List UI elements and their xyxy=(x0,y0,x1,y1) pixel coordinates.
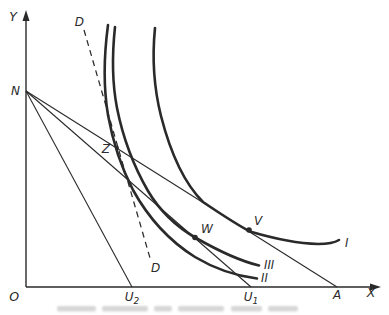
label-u2-base: U xyxy=(125,290,134,304)
label-x-axis: X xyxy=(366,285,376,300)
point-w-dot xyxy=(192,235,198,241)
label-y-axis: Y xyxy=(9,9,18,24)
indifference-curve-i xyxy=(154,28,339,244)
label-point-a: A xyxy=(332,288,341,302)
caption-smudge-segment xyxy=(268,306,298,312)
indifference-curve-ii xyxy=(105,25,257,279)
label-u1-subscript: 1 xyxy=(253,296,259,306)
label-point-z: Z xyxy=(101,142,111,156)
line-n-u2 xyxy=(26,91,132,287)
figure-canvas: Y X O N D D Z W V U2 U1 A I II III xyxy=(0,0,389,315)
label-u1-base: U xyxy=(244,290,253,304)
label-curve-iii: III xyxy=(264,258,275,272)
label-point-v: V xyxy=(254,214,263,228)
caption-smudge-segment xyxy=(178,306,224,312)
label-curve-ii: II xyxy=(261,271,268,285)
caption-smudge-segment xyxy=(154,306,172,312)
caption-smudge-segment xyxy=(231,306,262,312)
point-v-dot xyxy=(246,227,252,233)
y-axis-arrowhead-icon xyxy=(23,10,30,21)
caption-smudge-segment xyxy=(57,306,96,312)
label-d-bottom: D xyxy=(151,261,160,275)
label-u2-subscript: 2 xyxy=(134,296,140,306)
point-z-dot xyxy=(115,146,119,150)
line-n-u1 xyxy=(26,91,251,287)
indifference-curve-figure: Y X O N D D Z W V U2 U1 A I II III xyxy=(0,0,389,315)
label-curve-i: I xyxy=(345,236,349,250)
label-d-top: D xyxy=(75,15,84,29)
caption-smudge-segment xyxy=(102,306,148,312)
label-origin: O xyxy=(9,289,19,304)
caption-smudge xyxy=(57,306,298,312)
label-point-u1: U1 xyxy=(244,290,259,306)
label-point-u2: U2 xyxy=(125,290,140,306)
line-n-a xyxy=(26,91,337,287)
label-point-n: N xyxy=(11,84,20,98)
label-point-w: W xyxy=(201,222,214,236)
dashed-line-dd xyxy=(84,30,150,258)
